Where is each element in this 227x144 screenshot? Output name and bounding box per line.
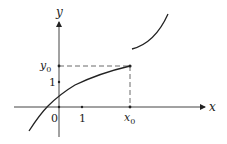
- point-x0-y0: [128, 64, 131, 67]
- tick-x1: [81, 106, 83, 108]
- right-branch-curve: [132, 14, 168, 49]
- x-axis-label: x: [209, 100, 216, 114]
- x0-label: x0: [124, 111, 135, 126]
- tick-x0: [129, 106, 132, 109]
- y-axis-label: y: [55, 5, 63, 19]
- y0-label: y0: [39, 59, 51, 74]
- x-one-label: 1: [79, 112, 86, 125]
- tick-y1: [58, 81, 60, 83]
- function-graph: y x y0 1 0 1 x0: [0, 0, 227, 144]
- tick-origin: [58, 106, 60, 108]
- tick-y0: [58, 65, 61, 68]
- y-one-label: 1: [49, 76, 56, 89]
- origin-label: 0: [51, 112, 58, 125]
